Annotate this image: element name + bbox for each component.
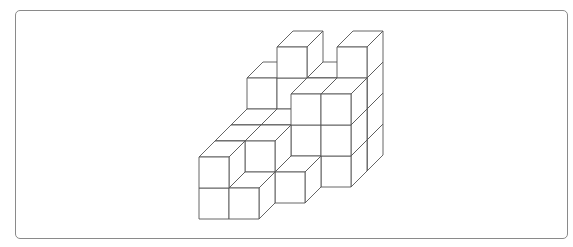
cube-front-face — [321, 94, 351, 125]
cube-front-face — [337, 47, 367, 78]
cube-front-face — [245, 141, 275, 172]
cube-front-face — [291, 94, 321, 125]
cube-front-face — [229, 188, 259, 219]
cube-front-face — [277, 47, 307, 78]
cube-stack-diagram — [0, 0, 573, 247]
cube-front-face — [291, 125, 321, 156]
cube-front-face — [321, 125, 351, 156]
cube-front-face — [275, 172, 305, 203]
cube-front-face — [247, 78, 277, 109]
cube-front-face — [321, 156, 351, 187]
cube-front-face — [199, 188, 229, 219]
cube-front-face — [199, 157, 229, 188]
